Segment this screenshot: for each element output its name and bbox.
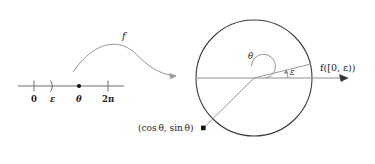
point-theta-on-line: [77, 84, 81, 88]
label-point-cos-sin: (cos θ, sin θ): [138, 124, 194, 133]
circle-group: [196, 20, 348, 136]
label-map-f: f: [122, 31, 126, 41]
map-arrow-curve: [73, 44, 176, 76]
label-theta-circle: θ: [248, 52, 253, 61]
label-epsilon-line: ε: [50, 95, 55, 104]
label-twopi: 2π: [102, 95, 114, 104]
map-arrow-group: [73, 44, 176, 79]
number-line-group: [18, 81, 124, 92]
point-cos-sin-marker: [201, 126, 206, 131]
label-epsilon-circle: ε: [290, 68, 295, 77]
figure-canvas: [0, 0, 375, 164]
label-image-of-interval: f([0, ε)): [320, 63, 355, 73]
theta-angle-arc: [251, 54, 275, 78]
label-zero: 0: [31, 95, 37, 104]
math-figure: 0 ε θ 2π f θ ε (cos θ, sin θ) f([0, ε)): [0, 0, 375, 164]
radius-to-point: [204, 78, 255, 128]
image-arrow-head: [340, 75, 349, 82]
epsilon-sector-ray: [254, 64, 311, 78]
label-theta-line: θ: [76, 95, 82, 104]
map-arrow-head: [170, 73, 177, 78]
